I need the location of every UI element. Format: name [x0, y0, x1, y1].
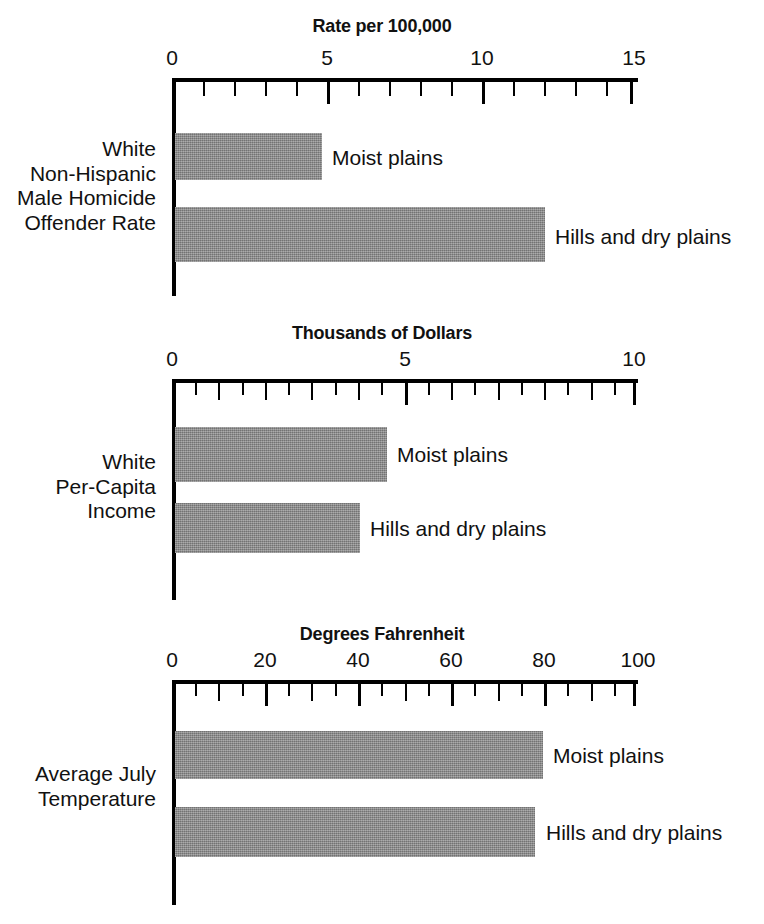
axis-tick-major: [358, 684, 361, 706]
x-axis-line: [172, 78, 638, 82]
bar-label-hills-and-dry-plains: Hills and dry plains: [370, 518, 546, 539]
axis-tick: [265, 82, 267, 96]
axis-tick-major: [633, 383, 636, 405]
bar-label-moist-plains: Moist plains: [553, 745, 664, 766]
axis-tick: [265, 383, 267, 400]
axis-tick-major: [633, 684, 636, 706]
axis-tick: [420, 82, 422, 96]
y-axis-line: [172, 680, 176, 905]
axis-tick: [544, 82, 546, 96]
bar-label-moist-plains: Moist plains: [397, 444, 508, 465]
axis-tick: [358, 82, 360, 96]
bar-label-hills-and-dry-plains: Hills and dry plains: [546, 822, 722, 843]
axis-tick: [591, 383, 593, 400]
axis-tick: [311, 684, 313, 701]
x-tick-label: 100: [620, 648, 655, 672]
axis-tick: [335, 383, 337, 395]
x-tick-label: 0: [166, 347, 178, 371]
axis-tick: [296, 82, 298, 96]
axis-tick: [521, 684, 523, 696]
x-tick-label: 15: [622, 46, 645, 70]
bar-label-moist-plains: Moist plains: [332, 147, 443, 168]
axis-tick-major: [630, 82, 633, 104]
axis-tick: [513, 82, 515, 96]
axis-tick: [234, 82, 236, 96]
axis-tick: [288, 684, 290, 696]
axis-tick: [389, 82, 391, 96]
axis-tick-major: [544, 684, 547, 706]
x-tick-label: 10: [470, 46, 493, 70]
axis-tick: [358, 383, 360, 400]
axis-tick: [195, 383, 197, 395]
x-tick-label: 20: [253, 648, 276, 672]
axis-tick: [381, 684, 383, 696]
axis-tick: [218, 383, 220, 400]
axis-tick: [614, 684, 616, 696]
axis-tick: [242, 383, 244, 395]
axis-tick: [544, 383, 546, 400]
axis-tick: [591, 684, 593, 701]
axis-tick-major: [482, 82, 485, 104]
bar-moist-plains: [175, 133, 322, 180]
axis-tick: [242, 684, 244, 696]
axis-tick: [288, 383, 290, 395]
chart-panel-july-temperature: Degrees Fahrenheit Average July Temperat…: [0, 610, 764, 924]
x-tick-label: 40: [346, 648, 369, 672]
y-axis-line: [172, 379, 176, 600]
axis-tick: [614, 383, 616, 395]
axis-tick: [474, 684, 476, 696]
y-axis-line: [172, 78, 176, 296]
x-tick-label: 60: [439, 648, 462, 672]
axis-tick: [218, 684, 220, 701]
axis-tick-major: [405, 383, 408, 405]
axis-tick: [451, 82, 453, 96]
axis-tick: [451, 383, 453, 400]
axis-tick: [311, 383, 313, 400]
axis-tick: [498, 684, 500, 701]
bar-moist-plains: [175, 427, 387, 482]
bar-label-hills-and-dry-plains: Hills and dry plains: [555, 226, 731, 247]
bar-hills-and-dry-plains: [175, 207, 545, 262]
chart-panel-per-capita-income: Thousands of Dollars White Per-Capita In…: [0, 310, 764, 610]
axis-tick: [567, 383, 569, 395]
axis-tick-major: [451, 684, 454, 706]
plot-area: 0 20 40 60 80 100 Moist plains Hills and…: [0, 610, 764, 924]
x-tick-label: 0: [166, 46, 178, 70]
axis-tick: [474, 383, 476, 395]
plot-area: 0 5 10 15 Moist plains Hills and dry pla…: [0, 0, 764, 310]
axis-tick: [575, 82, 577, 96]
bar-moist-plains: [175, 731, 543, 779]
axis-tick: [521, 383, 523, 395]
axis-tick-major: [327, 82, 330, 104]
axis-tick: [405, 684, 407, 701]
axis-tick: [195, 684, 197, 696]
x-tick-label: 10: [622, 347, 645, 371]
axis-tick: [428, 383, 430, 395]
axis-tick: [567, 684, 569, 696]
axis-tick: [606, 82, 608, 96]
axis-tick: [335, 684, 337, 696]
axis-tick: [203, 82, 205, 96]
x-tick-label: 5: [399, 347, 411, 371]
axis-tick: [381, 383, 383, 395]
x-tick-label: 0: [166, 648, 178, 672]
axis-tick: [428, 684, 430, 696]
axis-tick-major: [265, 684, 268, 706]
chart-panel-homicide-rate: Rate per 100,000 White Non-Hispanic Male…: [0, 0, 764, 310]
axis-tick: [498, 383, 500, 400]
plot-area: 0 5 10 Moist plains Hills and dry plains: [0, 310, 764, 610]
bar-hills-and-dry-plains: [175, 503, 360, 553]
bar-hills-and-dry-plains: [175, 807, 535, 857]
x-tick-label: 80: [532, 648, 555, 672]
x-tick-label: 5: [321, 46, 333, 70]
